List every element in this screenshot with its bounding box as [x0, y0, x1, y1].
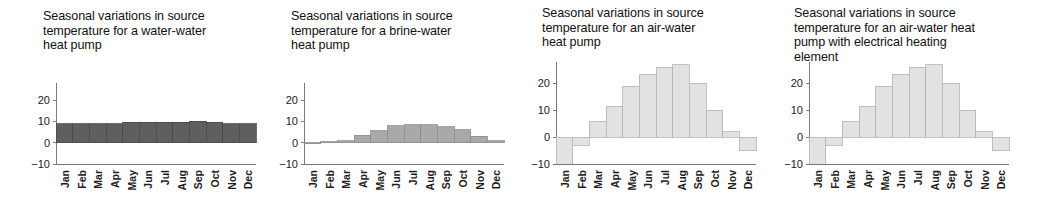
bar	[926, 65, 943, 137]
bar	[189, 121, 206, 142]
x-axis-tick-label: Oct	[457, 170, 469, 188]
bar	[73, 124, 90, 143]
x-axis-tick-label: Jan	[812, 170, 824, 188]
chart-panel-air-water: Seasonal variations in source temperatur…	[514, 0, 769, 213]
bar	[387, 126, 404, 143]
x-axis-tick-label: Dec	[242, 170, 254, 189]
bar	[139, 122, 156, 142]
bar	[321, 142, 338, 143]
bar	[371, 131, 388, 143]
x-axis-tick-label: Dec	[490, 170, 502, 189]
x-axis-tick-label: Nov	[474, 170, 486, 190]
bar	[656, 67, 673, 137]
y-axis-tick-label: 20	[791, 77, 803, 89]
bar	[992, 137, 1009, 150]
chart-title: Seasonal variations in source temperatur…	[542, 6, 752, 50]
bar	[892, 74, 909, 137]
x-axis-tick-label: Apr	[109, 170, 121, 188]
bar	[689, 83, 706, 137]
chart-panel-air-water-electrical: Seasonal variations in source temperatur…	[769, 0, 1041, 213]
chart-title: Seasonal variations in source temperatur…	[43, 9, 248, 53]
y-axis-tick-label: 10	[791, 104, 803, 116]
x-axis-tick-label: Nov	[979, 170, 991, 190]
bar	[404, 125, 421, 143]
chart-title: Seasonal variations in source temperatur…	[291, 9, 496, 53]
x-axis-tick-label: Jul	[159, 170, 171, 185]
x-axis-tick-label: Jun	[895, 170, 907, 189]
y-axis-tick-label: −10	[784, 158, 803, 170]
bar	[239, 124, 256, 143]
bar	[589, 121, 606, 137]
bar	[606, 106, 623, 137]
bar	[206, 122, 223, 142]
bar	[739, 137, 756, 150]
bar	[304, 143, 321, 144]
x-axis-tick-label: Oct	[209, 170, 221, 188]
bar	[421, 125, 438, 143]
x-axis-tick-label: Aug	[176, 170, 188, 190]
x-axis-tick-label: May	[879, 170, 891, 191]
bar	[156, 122, 173, 142]
bar	[909, 67, 926, 137]
chart-panel-brine-water: Seasonal variations in source temperatur…	[258, 0, 514, 213]
y-axis-tick-label: 0	[797, 131, 803, 143]
bar	[106, 124, 123, 143]
bar	[223, 124, 240, 143]
y-axis-tick-label: −10	[531, 158, 550, 170]
bar	[573, 137, 590, 145]
bar	[354, 135, 371, 142]
bar	[826, 137, 843, 145]
figure-panel-row: Seasonal variations in source temperatur…	[0, 0, 1041, 213]
bar	[942, 83, 959, 137]
x-axis-tick-label: Mar	[592, 170, 604, 189]
bar	[673, 65, 690, 137]
bar	[706, 110, 723, 137]
x-axis-tick-label: Apr	[357, 170, 369, 188]
bar	[623, 86, 640, 137]
x-axis-tick-label: Dec	[742, 170, 754, 189]
bar	[89, 124, 106, 143]
x-axis-tick-label: Oct	[709, 170, 721, 188]
bar	[723, 132, 740, 137]
y-axis-tick-label: −10	[31, 158, 50, 170]
x-axis-tick-label: Sep	[692, 170, 704, 189]
bar	[173, 122, 190, 142]
chart-panel-water-water: Seasonal variations in source temperatur…	[0, 0, 258, 213]
x-axis-tick-label: May	[126, 170, 138, 191]
x-axis-tick-label: Feb	[829, 170, 841, 189]
chart-title: Seasonal variations in source temperatur…	[794, 6, 1012, 64]
x-axis-tick-label: Dec	[995, 170, 1007, 189]
y-axis-tick-label: 0	[544, 131, 550, 143]
x-axis-tick-label: Jun	[142, 170, 154, 189]
bar	[471, 136, 488, 142]
x-axis-tick-label: Sep	[945, 170, 957, 189]
x-axis-tick-label: Mar	[845, 170, 857, 189]
bar	[809, 137, 826, 164]
x-axis-tick-label: Aug	[676, 170, 688, 190]
x-axis-tick-label: Aug	[929, 170, 941, 190]
x-axis-tick-label: Jan	[59, 170, 71, 188]
bar	[859, 106, 876, 137]
x-axis-tick-label: Feb	[76, 170, 88, 189]
x-axis-tick-label: Apr	[862, 170, 874, 188]
bar	[556, 137, 573, 164]
y-axis-tick-label: 20	[286, 94, 298, 106]
bar	[56, 124, 73, 143]
x-axis-tick-label: Nov	[726, 170, 738, 190]
x-axis-tick-label: Nov	[226, 170, 238, 190]
x-axis-tick-label: Apr	[609, 170, 621, 188]
x-axis-tick-label: Mar	[92, 170, 104, 189]
x-axis-tick-label: Jul	[659, 170, 671, 185]
bar	[976, 132, 993, 137]
bar	[437, 127, 454, 143]
bar	[959, 110, 976, 137]
bar	[876, 86, 893, 137]
x-axis-tick-label: Feb	[324, 170, 336, 189]
bar	[123, 122, 140, 142]
x-axis-tick-label: May	[374, 170, 386, 191]
y-axis-tick-label: 10	[538, 104, 550, 116]
x-axis-tick-label: Oct	[962, 170, 974, 188]
bar	[337, 141, 354, 143]
bar	[454, 130, 471, 143]
x-axis-tick-label: Jan	[307, 170, 319, 188]
